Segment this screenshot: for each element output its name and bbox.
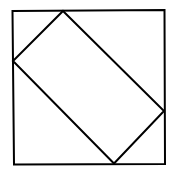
diagram-canvas [0, 0, 176, 180]
background [0, 0, 176, 180]
